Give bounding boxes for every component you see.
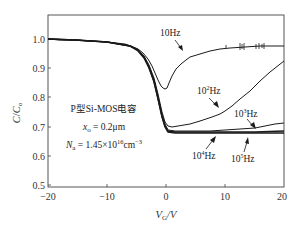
y-axis-title: C/Co [11,102,24,123]
annotation-10e5hz: 105Hz [231,137,255,164]
cv-chart: 0.5 0.6 0.7 0.8 0.9 1.0 −20 −10 0 10 20 … [0,0,297,233]
y-tick-labels: 0.5 0.6 0.7 0.8 0.9 1.0 [33,34,46,191]
y-tick-label: 1.0 [33,34,46,45]
label-10e3hz: 103Hz [234,108,258,119]
x-tick-label: 20 [277,191,287,202]
y-tick-label: 0.7 [33,122,46,133]
series-10hz [48,39,284,89]
oxide-thickness-label: xo = 0.2μm [82,122,126,134]
annotation-10hz: 10Hz [160,28,183,51]
x-tick-label: 0 [164,191,169,202]
annotation-10e4hz: 104Hz [192,136,216,161]
x-tick-labels: −20 −10 0 10 20 [40,191,287,202]
y-tick-label: 0.6 [33,151,46,162]
annotation-10e2hz: 102Hz [197,85,221,108]
annotation-10e3hz: 103Hz [234,108,258,129]
label-10e4hz: 104Hz [192,150,216,161]
y-tick-label: 0.5 [33,180,46,191]
y-tick-label: 0.9 [33,63,46,74]
doping-label: Na = 1.45×1016cm−3 [65,138,142,152]
x-tick-label: 10 [220,191,230,202]
label-10e2hz: 102Hz [197,85,221,96]
x-axis-title: VG/V [156,209,178,222]
label-10e5hz: 105Hz [231,153,255,164]
device-annotation: P型Si-MOS电容 xo = 0.2μm Na = 1.45×1016cm−3 [65,103,142,152]
y-tick-label: 0.8 [33,92,46,103]
device-label: P型Si-MOS电容 [71,103,138,114]
x-tick-label: −10 [99,191,115,202]
label-10hz: 10Hz [160,28,181,38]
x-tick-label: −20 [40,191,56,202]
